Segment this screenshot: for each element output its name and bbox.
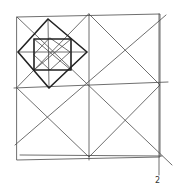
figure-number-label: 2 — [155, 176, 160, 185]
ul-vertical — [48, 19, 49, 88]
geometric-sketch — [0, 0, 179, 194]
diagonal-anti — [15, 15, 166, 145]
upper-left-diamond — [18, 19, 87, 88]
horizontal-midline — [14, 82, 168, 88]
